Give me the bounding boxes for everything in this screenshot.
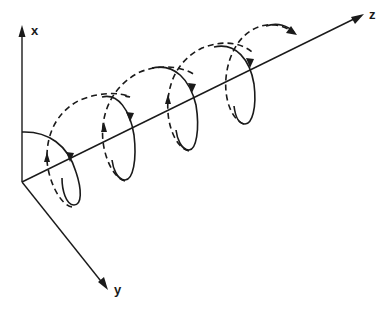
direction-arrow-icon bbox=[44, 152, 50, 162]
z-axis-label: z bbox=[369, 7, 376, 22]
helix-coil1-back bbox=[47, 94, 130, 207]
direction-arrow-icon bbox=[126, 112, 134, 122]
helix-coil3-back bbox=[168, 43, 252, 151]
direction-arrow-icon bbox=[165, 94, 171, 104]
x-axis-arrowhead bbox=[19, 25, 26, 37]
y-axis bbox=[22, 182, 104, 285]
helix-diagram: x z y bbox=[0, 0, 392, 312]
z-axis bbox=[22, 17, 358, 182]
z-axis-arrowhead bbox=[351, 14, 364, 24]
helix-coil2-back bbox=[103, 67, 195, 181]
direction-arrow-icon bbox=[101, 122, 107, 132]
x-axis-label: x bbox=[31, 23, 39, 38]
helix-coil4-back bbox=[226, 25, 290, 124]
helix bbox=[22, 24, 297, 207]
y-axis-label: y bbox=[114, 282, 122, 297]
